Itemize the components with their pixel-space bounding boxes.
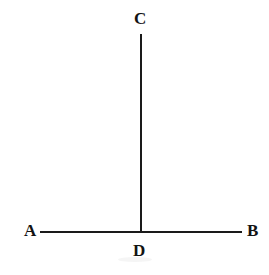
point-label-c: C xyxy=(134,10,146,27)
line-segment-cd xyxy=(140,34,142,232)
scan-smudge-artifact xyxy=(118,257,152,262)
point-label-a: A xyxy=(24,222,36,239)
point-label-b: B xyxy=(247,222,258,239)
geometry-figure: C A B D xyxy=(0,0,269,275)
